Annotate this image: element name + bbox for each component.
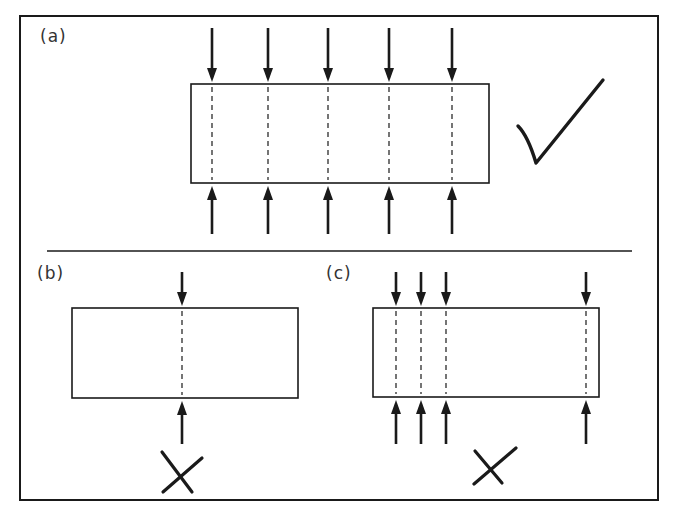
cross-icon	[474, 448, 516, 484]
down-arrow-icon	[263, 68, 273, 82]
down-arrow-icon	[581, 292, 591, 306]
panel-a	[191, 28, 603, 234]
down-arrow-icon	[441, 292, 451, 306]
cross-icon	[162, 452, 202, 492]
panel-b-label: (b)	[37, 265, 64, 282]
diagram-stage: (a) (b) (c)	[0, 0, 673, 517]
down-arrow-icon	[323, 68, 333, 82]
down-arrow-icon	[384, 68, 394, 82]
down-arrow-icon	[391, 292, 401, 306]
down-arrow-icon	[447, 68, 457, 82]
specimen-box	[72, 308, 298, 398]
cross-stroke	[474, 448, 516, 484]
checkmark-icon	[518, 80, 603, 163]
panel-a-label: (a)	[40, 28, 67, 45]
diagram-canvas	[0, 0, 673, 517]
outer-frame	[20, 16, 658, 500]
specimen-box	[191, 84, 489, 183]
specimen-box	[373, 308, 599, 397]
down-arrow-icon	[416, 292, 426, 306]
down-arrow-icon	[207, 68, 217, 82]
down-arrow-icon	[177, 292, 187, 306]
panel-c	[373, 272, 599, 484]
panel-b	[72, 272, 298, 492]
panel-c-label: (c)	[326, 265, 352, 282]
